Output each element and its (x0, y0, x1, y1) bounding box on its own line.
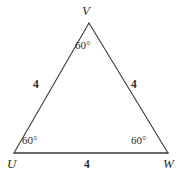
angle-label-w: 60° (131, 135, 146, 146)
triangle-shape (0, 0, 182, 176)
side-length-label-uw: 4 (84, 159, 90, 171)
vertex-label-w: W (163, 157, 174, 170)
triangle-side-vw (89, 23, 168, 153)
vertex-label-u: U (7, 157, 16, 170)
side-length-label-vw: 4 (131, 79, 137, 91)
angle-label-v: 60° (75, 40, 90, 51)
geometry-figure: V U W 60° 60° 60° 4 4 4 (0, 0, 182, 176)
vertex-label-v: V (82, 4, 90, 17)
side-length-label-uv: 4 (33, 79, 39, 91)
angle-label-u: 60° (22, 135, 37, 146)
